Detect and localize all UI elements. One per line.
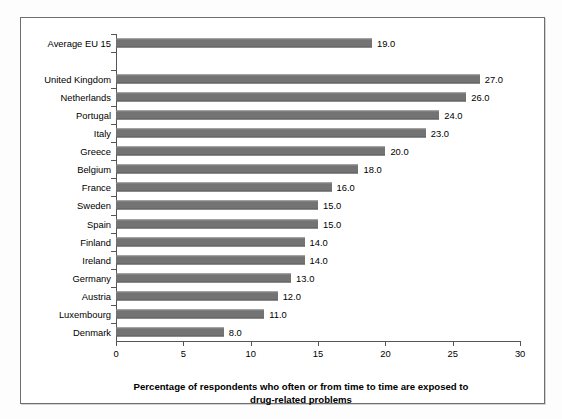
bar-value-label: 20.0 <box>390 146 408 157</box>
y-axis-tick <box>111 287 116 288</box>
category-label: Germany <box>21 272 111 283</box>
y-axis-tick <box>111 160 116 161</box>
x-axis-tick <box>116 341 117 346</box>
bar <box>116 129 426 138</box>
bar-value-label: 23.0 <box>431 128 449 139</box>
x-axis-tick-label: 5 <box>171 348 195 359</box>
table-row: Average EU 1519.0 <box>21 34 544 52</box>
y-axis-tick <box>111 323 116 324</box>
y-axis-tick <box>111 106 116 107</box>
y-axis-tick <box>111 305 116 306</box>
table-row: France16.0 <box>21 178 544 196</box>
bar-value-label: 15.0 <box>323 218 341 229</box>
bar-value-label: 14.0 <box>310 236 328 247</box>
x-axis-tick-label: 0 <box>104 348 128 359</box>
y-axis-tick <box>111 70 116 71</box>
bar <box>116 291 278 300</box>
bar <box>116 147 385 156</box>
bar <box>116 237 305 246</box>
table-row: Netherlands26.0 <box>21 88 544 106</box>
table-row: Ireland14.0 <box>21 251 544 269</box>
bar-value-label: 14.0 <box>310 254 328 265</box>
bar-value-label: 18.0 <box>363 164 381 175</box>
table-row: Luxembourg11.0 <box>21 305 544 323</box>
bar <box>116 183 332 192</box>
x-axis-tick <box>453 341 454 346</box>
bar <box>116 327 224 336</box>
category-label: Greece <box>21 146 111 157</box>
table-row: Germany13.0 <box>21 269 544 287</box>
category-label: Spain <box>21 218 111 229</box>
bar-value-label: 19.0 <box>377 38 395 49</box>
y-axis-tick <box>111 233 116 234</box>
bar-value-label: 13.0 <box>296 272 314 283</box>
category-label: Denmark <box>21 326 111 337</box>
x-axis-tick-label: 20 <box>373 348 397 359</box>
x-axis-tick-label: 25 <box>441 348 465 359</box>
y-axis-tick <box>111 178 116 179</box>
x-axis-tick <box>520 341 521 346</box>
bar <box>116 111 439 120</box>
x-axis-tick-label: 15 <box>306 348 330 359</box>
table-row: Portugal24.0 <box>21 106 544 124</box>
bar <box>116 165 358 174</box>
bar-value-label: 12.0 <box>283 290 301 301</box>
bar <box>116 201 318 210</box>
bar-value-label: 27.0 <box>485 74 503 85</box>
table-row: Italy23.0 <box>21 124 544 142</box>
category-label: United Kingdom <box>21 74 111 85</box>
figure-frame: Average EU 1519.0United Kingdom27.0Nethe… <box>20 17 545 404</box>
category-label: Sweden <box>21 200 111 211</box>
table-row: Greece20.0 <box>21 142 544 160</box>
bar-value-label: 15.0 <box>323 200 341 211</box>
x-axis-tick <box>385 341 386 346</box>
y-axis-tick <box>111 52 116 53</box>
bar-value-label: 8.0 <box>229 326 242 337</box>
bar <box>116 75 480 84</box>
bar-value-label: 11.0 <box>269 308 287 319</box>
x-axis-title: Percentage of respondents who often or f… <box>81 380 521 406</box>
bar <box>116 219 318 228</box>
y-axis-tick <box>111 251 116 252</box>
category-label: Belgium <box>21 164 111 175</box>
table-row: Sweden15.0 <box>21 196 544 214</box>
category-label: Portugal <box>21 110 111 121</box>
y-axis-tick <box>111 196 116 197</box>
y-axis-tick <box>111 124 116 125</box>
chart-plot-area: Average EU 1519.0United Kingdom27.0Nethe… <box>21 18 544 403</box>
table-row <box>21 52 544 70</box>
category-label: Netherlands <box>21 92 111 103</box>
bar <box>116 255 305 264</box>
category-label: France <box>21 182 111 193</box>
category-label: Ireland <box>21 254 111 265</box>
x-axis-title-line-1: Percentage of respondents who often or f… <box>81 380 521 393</box>
bar <box>116 273 291 282</box>
y-axis-tick <box>111 88 116 89</box>
category-label: Austria <box>21 290 111 301</box>
y-axis-tick <box>111 34 116 35</box>
x-axis-tick <box>318 341 319 346</box>
x-axis-tick <box>251 341 252 346</box>
bar <box>116 93 466 102</box>
bar <box>116 309 264 318</box>
table-row: United Kingdom27.0 <box>21 70 544 88</box>
bar-value-label: 26.0 <box>471 92 489 103</box>
category-label: Average EU 15 <box>21 38 111 49</box>
table-row: Spain15.0 <box>21 215 544 233</box>
table-row: Belgium18.0 <box>21 160 544 178</box>
table-row: Denmark8.0 <box>21 323 544 341</box>
bar-value-label: 16.0 <box>337 182 355 193</box>
x-axis-title-line-2: drug-related problems <box>81 393 521 406</box>
table-row: Finland14.0 <box>21 233 544 251</box>
bar <box>116 39 372 48</box>
y-axis-tick <box>111 269 116 270</box>
category-label: Luxembourg <box>21 308 111 319</box>
category-label: Italy <box>21 128 111 139</box>
x-axis-tick-label: 30 <box>508 348 532 359</box>
bar-value-label: 24.0 <box>444 110 462 121</box>
page-background: Average EU 1519.0United Kingdom27.0Nethe… <box>0 0 562 419</box>
y-axis-tick <box>111 215 116 216</box>
category-label: Finland <box>21 236 111 247</box>
y-axis-tick <box>111 142 116 143</box>
table-row: Austria12.0 <box>21 287 544 305</box>
